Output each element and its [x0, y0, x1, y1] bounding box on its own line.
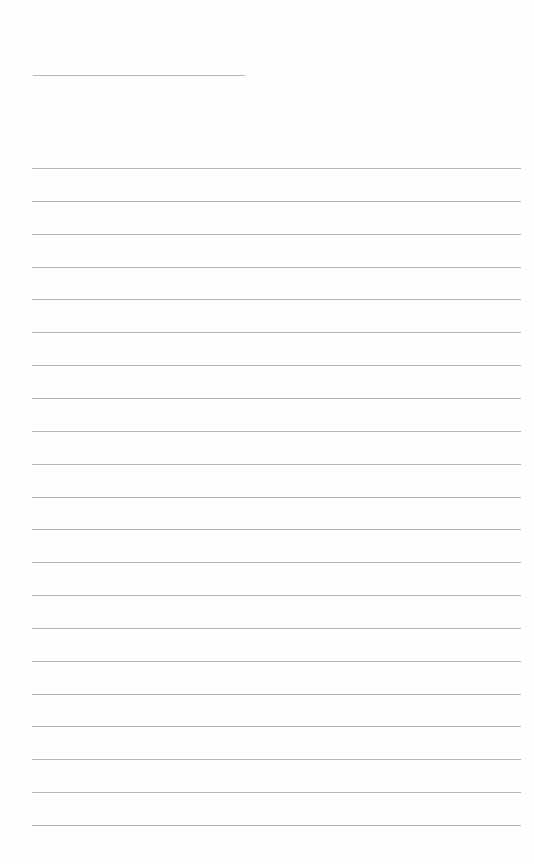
ruled-line [32, 431, 521, 432]
ruled-line [32, 299, 521, 300]
ruled-line [32, 464, 521, 465]
title-line [33, 75, 245, 76]
ruled-line [32, 661, 521, 662]
ruled-line [32, 497, 521, 498]
ruled-line [32, 332, 521, 333]
ruled-line [32, 398, 521, 399]
ruled-line [32, 694, 521, 695]
ruled-line [32, 201, 521, 202]
ruled-line [32, 726, 521, 727]
ruled-line [32, 825, 521, 826]
ruled-line [32, 792, 521, 793]
ruled-line [32, 595, 521, 596]
ruled-line [32, 759, 521, 760]
lined-paper-page [0, 0, 534, 864]
ruled-line [32, 234, 521, 235]
ruled-line [32, 628, 521, 629]
ruled-line [32, 562, 521, 563]
ruled-line [32, 529, 521, 530]
ruled-line [32, 267, 521, 268]
ruled-line [32, 365, 521, 366]
ruled-line [32, 168, 521, 169]
